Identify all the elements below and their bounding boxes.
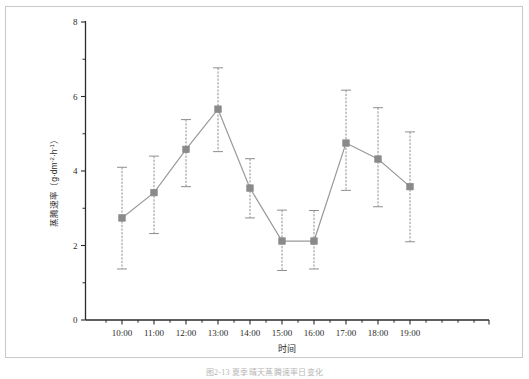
transpiration-rate-line-chart: 02468 10:0011:0012:0013:0014:0015:0016:0… <box>0 0 529 379</box>
x-tick-label: 14:00 <box>240 328 261 338</box>
x-tick-label: 10:00 <box>112 328 133 338</box>
y-tick-label: 8 <box>73 17 78 27</box>
y-axis: 02468 <box>73 17 86 325</box>
x-tick-label: 19:00 <box>400 328 421 338</box>
x-tick-label: 11:00 <box>144 328 165 338</box>
y-axis-title-text: 蒸腾速率（g·dm-2·h-1） <box>49 135 59 227</box>
data-point-marker <box>151 189 158 196</box>
x-tick-label: 13:00 <box>208 328 229 338</box>
data-point-marker <box>215 106 222 113</box>
x-tick-label: 15:00 <box>272 328 293 338</box>
x-tick-label: 12:00 <box>176 328 197 338</box>
x-tick-label: 16:00 <box>304 328 325 338</box>
figure-page: 02468 10:0011:0012:0013:0014:0015:0016:0… <box>0 0 529 379</box>
data-point-marker <box>119 215 126 222</box>
x-tick-label: 17:00 <box>336 328 357 338</box>
y-tick-label: 4 <box>73 166 78 176</box>
data-point-marker <box>407 183 414 190</box>
data-markers <box>119 106 414 244</box>
data-point-marker <box>311 238 318 245</box>
y-tick-label: 0 <box>73 315 78 325</box>
x-axis-title-text: 时间 <box>278 343 296 354</box>
data-point-marker <box>279 238 286 245</box>
data-line <box>122 109 410 241</box>
data-point-marker <box>343 140 350 147</box>
x-axis-title: 时间 <box>278 343 296 354</box>
y-tick-label: 6 <box>73 92 78 102</box>
error-bars <box>117 68 415 271</box>
x-axis: 10:0011:0012:0013:0014:0015:0016:0017:00… <box>86 320 490 338</box>
x-tick-label: 18:00 <box>368 328 389 338</box>
data-point-marker <box>375 156 382 163</box>
data-point-marker <box>247 185 254 192</box>
y-tick-label: 2 <box>73 241 78 251</box>
data-point-marker <box>183 146 190 153</box>
y-axis-title: 蒸腾速率（g·dm-2·h-1） <box>49 135 59 227</box>
figure-caption: 图2-13 夏季晴天蒸腾速率日变化 <box>0 366 529 379</box>
